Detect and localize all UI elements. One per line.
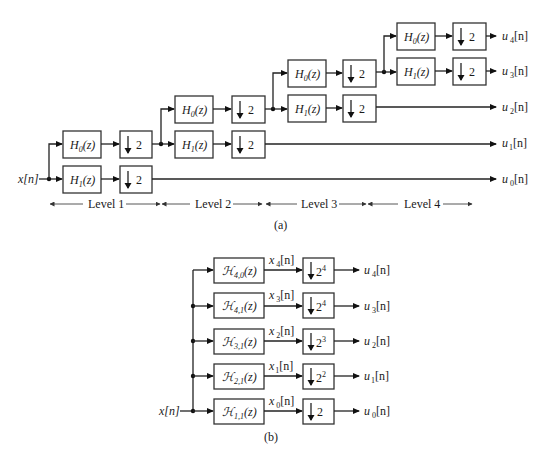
output-label-u1-b: u1[n]: [364, 369, 389, 385]
downsample-factor: 2: [469, 30, 475, 44]
signal-label-x4: x4[n]: [268, 253, 294, 269]
branch-row-4: ℋ1,1(z) x0[n] 2 u0[n]: [193, 394, 390, 424]
output-label-u1: u1[n]: [502, 136, 527, 152]
signal-label-x2: x2[n]: [268, 324, 294, 340]
level-4-stage: H0(z) H1(z) 2 2: [397, 23, 486, 85]
output-label-u2: u2[n]: [502, 100, 528, 116]
downsample-factor: 2: [248, 103, 254, 117]
h0-filter-label-l4: H0(z): [403, 30, 429, 46]
downsample-factor: 2: [317, 405, 323, 419]
h1-filter-label-l2: H1(z): [181, 138, 207, 154]
output-label-u3-b: u3[n]: [364, 299, 390, 315]
signal-label-x0: x0[n]: [268, 394, 294, 410]
output-label-u3: u3[n]: [502, 64, 528, 80]
level-1-label: Level 1: [88, 197, 124, 211]
level-3-stage: H0(z) H1(z) 2 2: [288, 60, 376, 122]
input-label-a: x[n]: [17, 172, 39, 186]
level-span-row: Level 1 Level 2 Level 3 Level 4: [50, 197, 472, 211]
wire: [161, 109, 174, 144]
h0-filter-label-l3: H0(z): [294, 67, 320, 83]
output-label-u4-b: u4[n]: [364, 263, 390, 279]
h1-filter-label-l3: H1(z): [294, 102, 320, 118]
level-2-stage: H0(z) H1(z) 2 2: [175, 96, 265, 158]
branch-row-3: ℋ2,1(z) x1[n] 22 u1[n]: [193, 359, 389, 389]
part-a-tree-decomposition: x[n] H0(z) H1(z) 2 2 H0(z): [17, 23, 528, 232]
branch-row-2: ℋ3,1(z) x2[n] 23 u2[n]: [193, 324, 390, 354]
signal-label-x1: x1[n]: [268, 359, 293, 375]
input-label-b: x[n]: [158, 404, 180, 418]
h0-filter-label-l2: H0(z): [181, 103, 207, 119]
downsample-factor: 2: [136, 138, 142, 152]
level-1-stage: H0(z) H1(z) 2 2: [63, 131, 152, 193]
outputs-a: u4[n] u3[n] u2[n] u1[n] u0[n]: [502, 29, 528, 188]
caption-b: (b): [264, 430, 278, 444]
wire: [273, 73, 287, 109]
downsample-factor: 2: [359, 102, 365, 116]
downsample-factor: 2: [248, 138, 254, 152]
wire: [384, 36, 396, 72]
output-label-u4: u4[n]: [502, 29, 528, 45]
branch-row-0: ℋ4,0(z) x4[n] 24 u4[n]: [193, 253, 390, 283]
downsample-factor: 2: [136, 173, 142, 187]
filter-bank-diagram: x[n] H0(z) H1(z) 2 2 H0(z): [0, 0, 547, 457]
h1-filter-label-l4: H1(z): [403, 65, 429, 81]
downsample-factor: 2: [359, 67, 365, 81]
part-b-equivalent-structure: x[n] ℋ4,0(z) x4[n] 24 u4[n] ℋ4,1(z) x3[n: [158, 253, 390, 444]
signal-label-x3: x3[n]: [268, 288, 294, 304]
output-label-u0: u0[n]: [502, 172, 528, 188]
downsample-factor: 2: [469, 65, 475, 79]
level-2-label: Level 2: [195, 197, 231, 211]
caption-a: (a): [274, 218, 287, 232]
h0-filter-label-l1: H0(z): [69, 138, 95, 154]
level-3-label: Level 3: [301, 197, 337, 211]
level-4-label: Level 4: [404, 197, 440, 211]
output-label-u0-b: u0[n]: [364, 404, 390, 420]
branch-row-1: ℋ4,1(z) x3[n] 24 u3[n]: [193, 288, 390, 318]
wire: [49, 144, 62, 179]
output-label-u2-b: u2[n]: [364, 334, 390, 350]
h1-filter-label-l1: H1(z): [69, 173, 95, 189]
